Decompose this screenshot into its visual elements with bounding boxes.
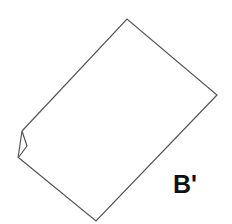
folded-paper-diagram xyxy=(0,0,232,224)
figure-label: B' xyxy=(173,172,197,197)
folded-corner-icon xyxy=(18,131,27,158)
